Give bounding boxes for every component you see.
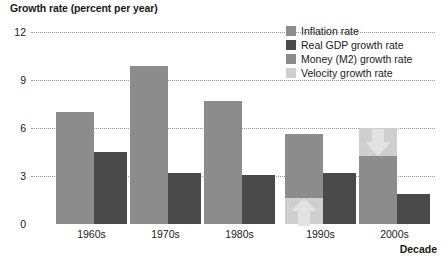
ytick-label-0: 0 bbox=[0, 218, 26, 230]
bar-money-m2-1980s bbox=[204, 101, 242, 224]
legend-item-velocity-growth-rate: Velocity growth rate bbox=[286, 66, 412, 80]
gridline-9 bbox=[31, 80, 435, 81]
x-axis-title: Decade bbox=[400, 243, 437, 255]
bar-real-gdp-1980s bbox=[242, 175, 275, 224]
bar-real-gdp-2000s bbox=[397, 194, 430, 224]
legend-item-money-m2-growth-rate: Money (M2) growth rate bbox=[286, 52, 412, 66]
legend-label-money-m2: Money (M2) growth rate bbox=[301, 53, 412, 65]
bar-real-gdp-1960s bbox=[94, 152, 127, 224]
bar-real-gdp-1970s bbox=[168, 173, 201, 224]
bar-money-m2-2000s bbox=[359, 156, 397, 224]
legend-item-inflation-rate: Inflation rate bbox=[286, 24, 412, 38]
legend-swatch-inflation-icon bbox=[286, 26, 296, 36]
ytick-label-6: 6 bbox=[0, 122, 26, 134]
legend-swatch-velocity-icon bbox=[286, 68, 296, 78]
xtick-label-1990s: 1990s bbox=[285, 228, 356, 240]
legend-label-real-gdp: Real GDP growth rate bbox=[301, 39, 404, 51]
xtick-label-1980s: 1980s bbox=[204, 228, 275, 240]
xtick-label-1970s: 1970s bbox=[130, 228, 201, 240]
chart-legend: Inflation rate Real GDP growth rate Mone… bbox=[286, 24, 412, 80]
chart-figure: Growth rate (percent per year) 12 9 6 3 … bbox=[0, 0, 445, 265]
bar-real-gdp-1990s bbox=[323, 173, 356, 224]
ytick-label-9: 9 bbox=[0, 74, 26, 86]
bar-money-m2-1960s bbox=[56, 112, 94, 224]
velocity-band-2000s bbox=[359, 128, 397, 156]
ytick-label-12: 12 bbox=[0, 26, 26, 38]
legend-item-real-gdp-growth-rate: Real GDP growth rate bbox=[286, 38, 412, 52]
legend-label-inflation: Inflation rate bbox=[301, 25, 359, 37]
legend-swatch-real-gdp-icon bbox=[286, 40, 296, 50]
xtick-label-1960s: 1960s bbox=[56, 228, 127, 240]
legend-swatch-money-m2-icon bbox=[286, 54, 296, 64]
velocity-band-1990s bbox=[285, 198, 323, 224]
bar-money-m2-1970s bbox=[130, 66, 168, 224]
ytick-label-3: 3 bbox=[0, 170, 26, 182]
legend-label-velocity: Velocity growth rate bbox=[301, 67, 393, 79]
xtick-label-2000s: 2000s bbox=[359, 228, 430, 240]
